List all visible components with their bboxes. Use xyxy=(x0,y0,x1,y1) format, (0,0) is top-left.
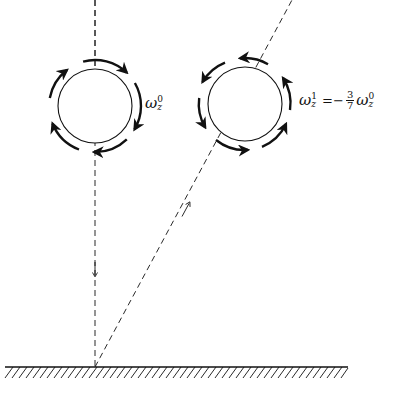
fraction: 37 xyxy=(346,90,354,111)
spin-label-before: ω0z xyxy=(145,93,163,112)
omega-symbol: ω xyxy=(299,91,311,109)
subscript: z xyxy=(368,100,374,108)
ground-surface xyxy=(5,367,348,378)
denominator: 7 xyxy=(346,101,354,111)
spin-label-after: ω1z =−37ω0z xyxy=(299,90,374,111)
reflected-trajectory xyxy=(95,0,292,367)
up-right-arrow-icon xyxy=(182,204,189,217)
ball-before xyxy=(50,0,141,152)
diagram-graphics xyxy=(0,0,393,400)
omega-symbol: ω xyxy=(356,91,368,109)
equals-sign: = xyxy=(322,93,333,108)
diagram-canvas: ω0z ω1z =−37ω0z xyxy=(0,0,393,400)
minus-sign: − xyxy=(333,93,344,108)
ball-after xyxy=(199,58,291,150)
omega-symbol: ω xyxy=(145,94,157,112)
subscript: z xyxy=(311,100,317,108)
subscript: z xyxy=(157,103,163,111)
